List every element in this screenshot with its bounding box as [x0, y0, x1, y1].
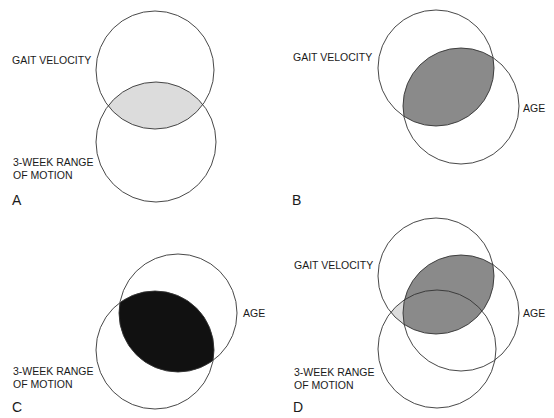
panel-d-medium-shade [403, 255, 519, 371]
label-age: AGE [523, 102, 545, 114]
panel-c-overlap-shade [96, 291, 214, 409]
panel-letter-b: B [292, 192, 301, 208]
label-age: AGE [243, 307, 265, 319]
panel-a-overlap-shade [96, 82, 216, 202]
panel-d: GAIT VELOCITY AGE 3-WEEK RANGE OF MOTION… [293, 218, 545, 415]
panel-letter-c: C [12, 399, 22, 415]
label-rom-line2: OF MOTION [13, 169, 73, 181]
label-rom-line2: OF MOTION [13, 378, 73, 390]
label-gait-velocity: GAIT VELOCITY [12, 54, 91, 66]
venn-diagrams: GAIT VELOCITY 3-WEEK RANGE OF MOTION A G… [0, 0, 554, 418]
panel-a: GAIT VELOCITY 3-WEEK RANGE OF MOTION A [12, 11, 216, 208]
label-gait-velocity: GAIT VELOCITY [294, 259, 373, 271]
panel-letter-d: D [293, 399, 303, 415]
label-rom-line2: OF MOTION [294, 379, 354, 391]
panel-letter-a: A [12, 192, 22, 208]
label-gait-velocity: GAIT VELOCITY [293, 51, 372, 63]
panel-c: AGE 3-WEEK RANGE OF MOTION C [12, 254, 265, 415]
panel-b-overlap-shade [403, 48, 519, 164]
label-rom-line1: 3-WEEK RANGE [13, 156, 94, 168]
label-rom-line1: 3-WEEK RANGE [13, 365, 94, 377]
label-rom-line1: 3-WEEK RANGE [294, 366, 375, 378]
panel-b: GAIT VELOCITY AGE B [292, 10, 545, 208]
venn-figure: GAIT VELOCITY 3-WEEK RANGE OF MOTION A G… [0, 0, 554, 418]
label-age: AGE [523, 307, 545, 319]
